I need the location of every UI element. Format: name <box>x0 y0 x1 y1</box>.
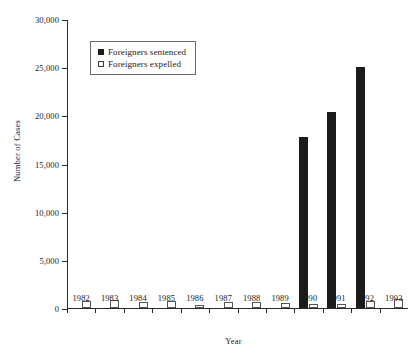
x-axis-tick <box>181 309 182 313</box>
y-axis-tick-label: 0 <box>1 305 59 313</box>
legend-item-label: Foreigners sentenced <box>108 47 186 57</box>
legend-item-sentenced: Foreigners sentenced <box>98 46 186 58</box>
x-axis-tick <box>380 309 381 313</box>
y-axis-tick-label: 25,000 <box>1 64 59 72</box>
x-axis-tick <box>124 309 125 313</box>
x-axis-tick <box>152 309 153 313</box>
y-axis-tick <box>62 116 67 117</box>
hollow-square-icon <box>98 61 104 67</box>
y-axis-title: Number of Cases <box>12 91 22 211</box>
x-axis-tick <box>266 309 267 313</box>
y-axis-tick <box>62 165 67 166</box>
y-axis-tick-label: 20,000 <box>1 112 59 120</box>
y-axis-tick <box>62 20 67 21</box>
y-axis-line <box>67 20 68 309</box>
y-axis-tick-label: 5,000 <box>1 257 59 265</box>
x-axis-title: Year <box>55 336 412 346</box>
x-axis-tick <box>209 309 210 313</box>
bar-expelled <box>309 304 318 308</box>
x-axis-tick <box>294 309 295 313</box>
legend-item-expelled: Foreigners expelled <box>98 58 186 70</box>
x-axis-tick <box>238 309 239 313</box>
bar-sentenced <box>299 137 308 308</box>
bar-expelled <box>281 303 290 308</box>
y-axis-tick-label: 30,000 <box>1 16 59 24</box>
bar-chart: Number of Cases 198219831984198519861987… <box>0 0 414 355</box>
bar-sentenced <box>356 67 365 308</box>
y-axis-tick-label: 15,000 <box>1 161 59 169</box>
x-axis-tick <box>351 309 352 313</box>
bar-expelled <box>337 304 346 308</box>
x-axis-tick <box>67 309 68 313</box>
bar-sentenced <box>327 112 336 308</box>
y-axis-tick-label: 10,000 <box>1 209 59 217</box>
x-axis-tick-label: 1993 <box>374 293 414 303</box>
y-axis-tick <box>62 261 67 262</box>
x-axis-tick <box>95 309 96 313</box>
filled-square-icon <box>98 49 104 55</box>
chart-legend: Foreigners sentenced Foreigners expelled <box>90 41 196 75</box>
x-axis-tick <box>323 309 324 313</box>
y-axis-tick <box>62 68 67 69</box>
legend-item-label: Foreigners expelled <box>108 59 181 69</box>
y-axis-tick <box>62 213 67 214</box>
bar-expelled <box>195 305 204 308</box>
bar-expelled <box>252 302 261 308</box>
bar-expelled <box>224 302 233 308</box>
